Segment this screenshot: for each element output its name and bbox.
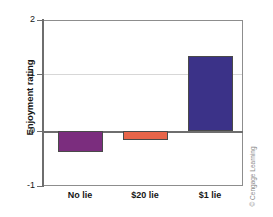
bar-1-dollar-lie — [188, 56, 233, 131]
y-tick-mark-2 — [37, 20, 43, 21]
y-axis-title: Enjoyment rating — [24, 18, 35, 178]
y-tick-label-negative-1: -1 — [5, 180, 35, 190]
copyright-credit: © Cengage Learning — [249, 97, 256, 207]
y-tick-mark-0 — [37, 131, 43, 132]
bar-chart-figure: Enjoyment rating 2 1 0 -1 No lie $20 lie… — [0, 0, 273, 217]
x-tick-label-1-dollar-lie: $1 lie — [175, 190, 245, 200]
y-tick-label-2: 2 — [5, 14, 35, 24]
y-axis-line — [42, 19, 44, 187]
bar-20-dollar-lie — [123, 131, 168, 140]
x-tick-label-20-dollar-lie: $20 lie — [110, 190, 180, 200]
y-tick-mark-1 — [37, 74, 43, 75]
y-tick-label-0: 0 — [5, 125, 35, 135]
bar-no-lie — [58, 131, 103, 152]
y-tick-mark-n1 — [37, 186, 43, 187]
y-tick-label-1: 1 — [5, 68, 35, 78]
x-tick-label-no-lie: No lie — [45, 190, 115, 200]
